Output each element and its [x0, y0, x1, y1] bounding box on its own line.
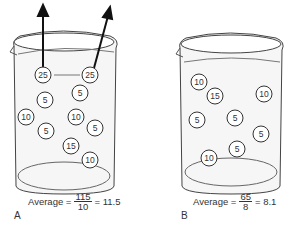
average-result: = 11.5 — [95, 196, 121, 207]
svg-text:10: 10 — [204, 153, 214, 163]
molecule: 5 — [189, 112, 205, 128]
svg-text:10: 10 — [259, 89, 269, 99]
fraction: 115 10 — [74, 192, 91, 211]
svg-text:5: 5 — [43, 95, 48, 105]
molecule: 5 — [87, 120, 103, 136]
denominator: 10 — [78, 202, 89, 211]
molecule: 15 — [63, 138, 79, 154]
svg-text:10: 10 — [21, 112, 31, 122]
molecule: 5 — [38, 123, 54, 139]
svg-text:10: 10 — [71, 112, 81, 122]
beaker-label-a: A — [14, 210, 21, 221]
svg-text:5: 5 — [259, 129, 264, 139]
average-result: = 8.1 — [255, 196, 276, 207]
molecule: 5 — [72, 85, 88, 101]
molecule: 5 — [253, 126, 269, 142]
denominator: 8 — [243, 202, 248, 211]
molecule: 10 — [201, 150, 217, 166]
average-label: Average = — [28, 196, 71, 207]
svg-text:5: 5 — [235, 144, 240, 154]
svg-text:5: 5 — [78, 88, 83, 98]
molecule: 5 — [227, 110, 243, 126]
molecule: 10 — [82, 152, 98, 168]
average-caption-a: Average = 115 10 = 11.5 — [28, 192, 121, 211]
svg-text:25: 25 — [38, 70, 48, 80]
molecule: 10 — [18, 109, 34, 125]
molecule: 5 — [229, 141, 245, 157]
average-caption-b: Average = 65 8 = 8.1 — [193, 192, 276, 211]
molecule: 25 — [35, 67, 51, 83]
molecule: 10 — [256, 86, 272, 102]
molecule: 15 — [207, 88, 223, 104]
molecule: 10 — [68, 109, 84, 125]
fraction: 65 8 — [239, 192, 252, 211]
average-label: Average = — [193, 196, 236, 207]
svg-text:10: 10 — [85, 155, 95, 165]
beaker-label-b: B — [181, 210, 188, 221]
svg-text:5: 5 — [44, 126, 49, 136]
molecule: 5 — [37, 92, 53, 108]
svg-text:25: 25 — [85, 70, 95, 80]
svg-text:5: 5 — [93, 123, 98, 133]
svg-text:5: 5 — [195, 115, 200, 125]
svg-text:5: 5 — [233, 113, 238, 123]
molecule: 25 — [82, 67, 98, 83]
svg-text:15: 15 — [210, 91, 220, 101]
molecule: 10 — [191, 74, 207, 90]
svg-text:10: 10 — [194, 77, 204, 87]
svg-text:15: 15 — [66, 141, 76, 151]
